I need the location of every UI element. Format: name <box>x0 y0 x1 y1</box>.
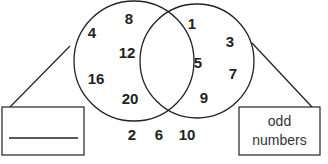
right-set-label-line2: numbers <box>252 132 306 148</box>
left-set-label-box <box>2 107 84 155</box>
number-20: 20 <box>122 90 139 107</box>
number-4: 4 <box>88 24 97 41</box>
number-1: 1 <box>188 15 196 32</box>
number-7: 7 <box>229 65 237 82</box>
left-label-connector <box>10 46 70 107</box>
right-set-label-line1: odd <box>268 113 291 129</box>
number-8: 8 <box>125 10 133 27</box>
number-6: 6 <box>155 126 163 143</box>
number-3: 3 <box>226 33 234 50</box>
venn-diagram: odd numbers 4 8 12 16 20 1 3 5 7 9 2 6 1… <box>0 0 328 164</box>
number-16: 16 <box>88 70 105 87</box>
number-10: 10 <box>179 126 196 143</box>
number-12: 12 <box>119 44 136 61</box>
number-9: 9 <box>200 89 208 106</box>
number-2: 2 <box>128 126 136 143</box>
number-5: 5 <box>194 54 202 71</box>
right-label-connector <box>252 43 312 107</box>
